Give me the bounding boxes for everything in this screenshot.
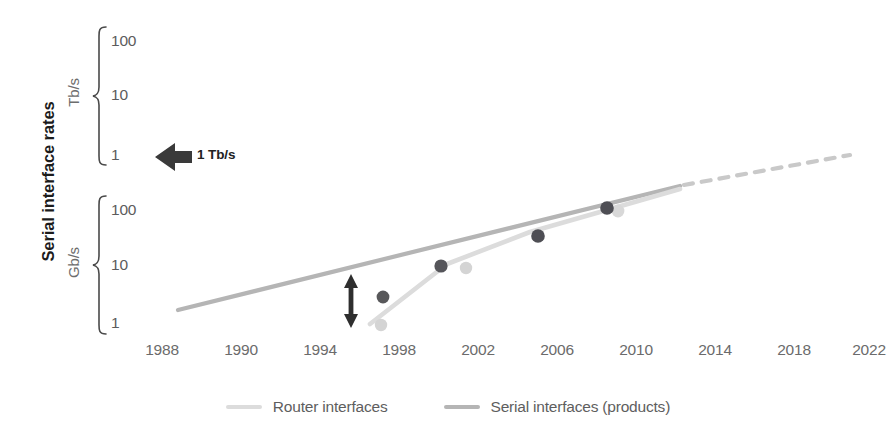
- ytick-gbps-1: 1: [111, 314, 119, 332]
- legend-label-router-interfaces: Router interfaces: [273, 398, 388, 416]
- ytick-gbps-100: 100: [111, 201, 136, 219]
- xtick-2006: 2006: [529, 341, 585, 359]
- y-axis-unit-gbps: Gb/s: [65, 233, 82, 293]
- rate-gap-double-arrow-icon: [344, 274, 358, 328]
- xtick-2010: 2010: [608, 341, 664, 359]
- xtick-1994: 1994: [292, 341, 348, 359]
- xtick-1998: 1998: [371, 341, 427, 359]
- router-interfaces-trend-line: [370, 189, 680, 324]
- xtick-2014: 2014: [687, 341, 743, 359]
- ytick-tbps-10: 10: [111, 86, 128, 104]
- y-axis-title: Serial interface rates: [39, 72, 58, 292]
- ytick-tbps-100: 100: [111, 32, 136, 50]
- xtick-2002: 2002: [450, 341, 506, 359]
- legend-swatch-serial-interfaces: [444, 405, 480, 409]
- ytick-gbps-10: 10: [111, 256, 128, 274]
- chart-container: Serial interface rates Tb/s Gb/s 100 10 …: [0, 0, 896, 442]
- xtick-1988: 1988: [134, 341, 190, 359]
- xtick-1990: 1990: [213, 341, 269, 359]
- serial-interfaces-trend-line: [178, 155, 850, 310]
- tbps-axis-brace: [93, 27, 106, 165]
- xtick-2022: 2022: [841, 341, 896, 359]
- gbps-axis-brace: [93, 196, 106, 334]
- legend-label-serial-interfaces: Serial interfaces (products): [491, 398, 671, 416]
- one-tbps-left-arrow-icon: [155, 143, 192, 171]
- chart-plot-area: [0, 0, 896, 442]
- legend-swatch-router-interfaces: [226, 405, 262, 409]
- chart-legend: Router interfaces Serial interfaces (pro…: [0, 398, 896, 416]
- xtick-2018: 2018: [766, 341, 822, 359]
- legend-item-router-interfaces: Router interfaces: [226, 398, 388, 416]
- legend-item-serial-interfaces: Serial interfaces (products): [444, 398, 671, 416]
- y-axis-unit-tbps: Tb/s: [65, 63, 82, 123]
- router-interfaces-points: [375, 205, 625, 332]
- one-tbps-annotation-label: 1 Tb/s: [197, 147, 235, 162]
- ytick-tbps-1: 1: [111, 146, 119, 164]
